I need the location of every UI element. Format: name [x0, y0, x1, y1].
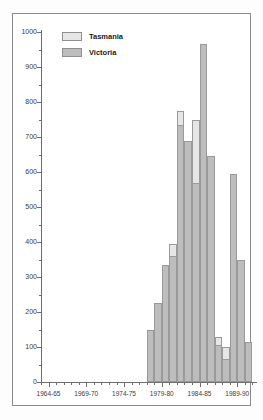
x-tick-label: 1984-85: [180, 390, 220, 398]
x-tick: [169, 383, 170, 385]
x-tick: [101, 383, 102, 385]
bar-1983-84: [192, 120, 200, 383]
bar-1986-87: [215, 337, 223, 383]
legend-item-label: Victoria: [89, 48, 116, 57]
bar-1980-81: [169, 244, 177, 382]
bar-1979-80: [162, 265, 170, 382]
bar-segment-victoria: [230, 174, 238, 382]
x-tick: [215, 383, 216, 385]
x-tick: [64, 383, 65, 385]
figure: 10009008007006005004003002001000 1964-65…: [0, 0, 263, 420]
y-tick-500: [37, 207, 42, 208]
y-tick-label: 900: [0, 63, 37, 70]
x-tick: [86, 383, 87, 387]
y-minor-tick: [39, 50, 42, 51]
y-tick-400: [37, 242, 42, 243]
x-tick: [117, 383, 118, 385]
y-minor-tick: [39, 155, 42, 156]
y-tick-label: 600: [0, 168, 37, 175]
bar-segment-victoria: [245, 342, 253, 382]
bar-segment-victoria: [184, 141, 192, 383]
legend-swatch-icon: [62, 48, 82, 57]
y-tick-label: 700: [0, 133, 37, 140]
x-tick: [237, 383, 238, 387]
bar-1987-88: [222, 347, 230, 382]
x-tick: [71, 383, 72, 385]
x-tick-label: 1974-75: [104, 390, 144, 398]
x-tick: [147, 383, 148, 385]
y-tick-100: [37, 347, 42, 348]
bar-segment-victoria: [154, 303, 162, 382]
x-tick: [41, 383, 42, 385]
x-tick-label: 1964-65: [29, 390, 69, 398]
bar-segment-victoria: [222, 359, 230, 382]
x-tick-label: 1969-70: [66, 390, 106, 398]
y-tick-label: 300: [0, 273, 37, 280]
bar-1989-90: [237, 260, 245, 383]
x-tick: [184, 383, 185, 385]
bar-1977-78: [147, 330, 155, 383]
y-tick-label: 100: [0, 343, 37, 350]
legend-swatch-icon: [62, 32, 82, 41]
bar-segment-victoria: [207, 156, 215, 382]
x-tick: [177, 383, 178, 385]
y-minor-tick: [39, 365, 42, 366]
y-minor-tick: [39, 85, 42, 86]
bar-segment-victoria: [200, 44, 208, 382]
y-tick-label: 800: [0, 98, 37, 105]
x-tick: [230, 383, 231, 385]
x-tick: [222, 383, 223, 385]
x-tick: [94, 383, 95, 385]
bar-segment-victoria: [177, 125, 185, 382]
y-tick-label: 0: [0, 378, 37, 385]
y-minor-tick: [39, 295, 42, 296]
y-tick-label: 200: [0, 308, 37, 315]
x-tick: [162, 383, 163, 387]
bar-1982-83: [184, 141, 192, 383]
y-tick-1000: [37, 32, 42, 33]
plot-area: 10009008007006005004003002001000 1964-65…: [0, 0, 263, 420]
y-tick-600: [37, 172, 42, 173]
bar-1988-89: [230, 174, 238, 382]
bar-segment-victoria: [147, 330, 155, 383]
y-tick-label: 400: [0, 238, 37, 245]
legend-item-label: Tasmania: [89, 32, 123, 41]
y-minor-tick: [39, 260, 42, 261]
x-tick-label: 1989-90: [217, 390, 257, 398]
x-tick: [200, 383, 201, 387]
x-tick: [252, 383, 253, 385]
x-tick: [79, 383, 80, 385]
y-minor-tick: [39, 190, 42, 191]
y-minor-tick: [39, 120, 42, 121]
x-tick: [139, 383, 140, 385]
bar-1984-85: [200, 44, 208, 382]
x-tick: [124, 383, 125, 387]
x-tick: [49, 383, 50, 387]
x-tick: [154, 383, 155, 385]
bar-1985-86: [207, 156, 215, 382]
bar-segment-victoria: [215, 345, 223, 382]
legend-item-victoria: Victoria: [62, 46, 142, 59]
y-tick-700: [37, 137, 42, 138]
bar-segment-victoria: [237, 260, 245, 383]
x-tick: [192, 383, 193, 385]
x-tick: [109, 383, 110, 385]
bar-segment-victoria: [192, 183, 200, 383]
x-tick: [56, 383, 57, 385]
y-tick-label: 500: [0, 203, 37, 210]
y-tick-label: 1000: [0, 28, 37, 35]
x-tick: [245, 383, 246, 385]
y-tick-300: [37, 277, 42, 278]
bar-1990-91: [245, 342, 253, 382]
x-axis-line: [41, 382, 257, 383]
bar-1981-82: [177, 111, 185, 382]
chart-legend: TasmaniaVictoria: [62, 30, 142, 62]
legend-item-tasmania: Tasmania: [62, 30, 142, 43]
x-tick: [132, 383, 133, 385]
bar-1978-79: [154, 303, 162, 382]
y-tick-800: [37, 102, 42, 103]
y-tick-200: [37, 312, 42, 313]
y-minor-tick: [39, 225, 42, 226]
y-minor-tick: [39, 330, 42, 331]
x-tick-label: 1979-80: [142, 390, 182, 398]
